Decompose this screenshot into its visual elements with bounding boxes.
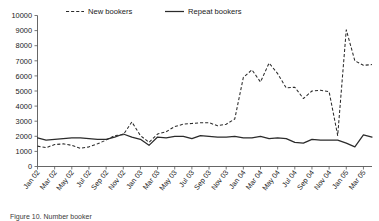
y-axis-tick-label: 2000: [16, 132, 32, 141]
chart-figure: 0100020003000400050006000700080009000100…: [0, 0, 379, 221]
x-axis-tick-label: Nov 02: [106, 168, 127, 191]
series-line-new-bookers: [38, 30, 373, 149]
legend-label-repeat-bookers: Repeat bookers: [188, 7, 242, 16]
y-axis-tick-label: 6000: [16, 72, 32, 81]
x-axis-tick-label: Nov 04: [312, 168, 333, 191]
x-axis-tick-label: Nov 03: [209, 168, 230, 191]
x-axis-tick-label: Sep 04: [295, 168, 316, 191]
y-axis-tick-label: 5000: [16, 87, 32, 96]
legend-label-new-bookers: New bookers: [88, 7, 133, 16]
series-line-repeat-bookers: [38, 134, 373, 147]
line-chart: 0100020003000400050006000700080009000100…: [0, 0, 379, 221]
y-axis-tick-label: 10000: [11, 11, 32, 20]
x-axis-tick-label: Sep 03: [192, 168, 213, 191]
y-axis-tick-label: 0: [28, 162, 32, 171]
x-axis-tick-label: May 02: [54, 168, 76, 192]
y-axis-tick-label: 9000: [16, 26, 32, 35]
x-axis-tick-label: Mar 05: [347, 168, 368, 191]
chart-legend: New bookers Repeat bookers: [66, 7, 242, 16]
y-axis-tick-label: 3000: [16, 117, 32, 126]
y-axis-tick-label: 7000: [16, 57, 32, 66]
x-axis: Jan 02Mar 02May 02Jul 02Sep 02Nov 02Jan …: [21, 167, 367, 193]
x-axis-tick-label: May 04: [260, 168, 282, 192]
figure-caption: Figure 10. Number booker: [10, 213, 92, 221]
y-axis-tick-label: 8000: [16, 41, 32, 50]
y-axis-tick-label: 1000: [16, 147, 32, 156]
x-axis-tick-label: Sep 02: [89, 168, 110, 191]
y-axis: 0100020003000400050006000700080009000100…: [11, 11, 37, 171]
x-axis-tick-label: May 03: [157, 168, 179, 192]
y-axis-tick-label: 4000: [16, 102, 32, 111]
